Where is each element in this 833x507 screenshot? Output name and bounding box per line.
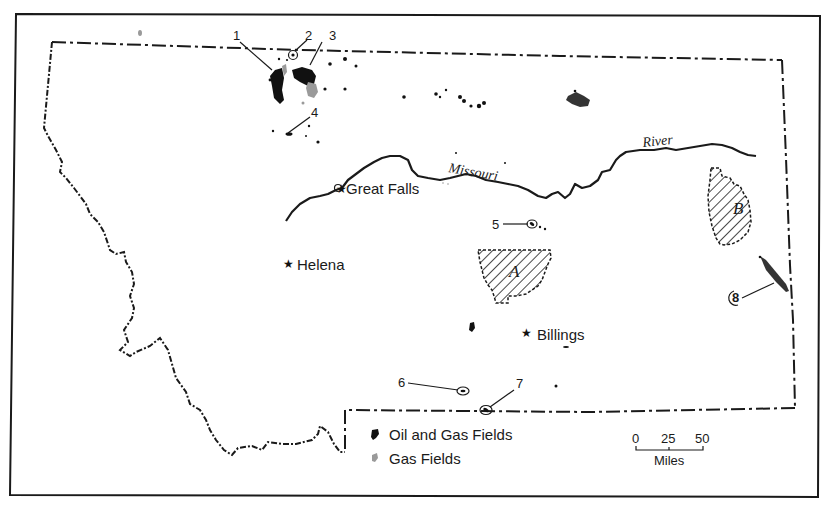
city-star-icon: ★: [283, 257, 294, 271]
legend-label-oil-gas: Oil and Gas Fields: [389, 426, 512, 443]
field-5: 5: [492, 217, 546, 232]
field-label-5: 5: [492, 217, 499, 232]
legend-label-gas: Gas Fields: [389, 450, 461, 467]
field-label-3: 3: [329, 28, 336, 43]
city-star-icon: ★: [521, 326, 532, 340]
field-6: 6: [398, 375, 469, 395]
field-8: 8: [729, 256, 789, 306]
scale-unit-label: Miles: [654, 453, 685, 468]
missouri-river: Missouri River: [286, 132, 756, 221]
scale-tick-0: 0: [632, 431, 639, 446]
northern-field-cluster: [138, 30, 590, 185]
area-label-b: B: [733, 199, 744, 218]
city-label-helena: Helena: [297, 256, 345, 273]
oil-gas-field-icon: [371, 429, 379, 440]
field-7: 7: [480, 376, 523, 415]
legend-item-gas: Gas Fields: [372, 450, 461, 467]
city-label-great-falls: Great Falls: [346, 180, 419, 197]
city-label-billings: Billings: [537, 326, 585, 343]
north-field-leaders: 1 2 3 4: [233, 28, 336, 133]
area-a: A: [478, 250, 551, 303]
area-label-a: A: [508, 262, 520, 281]
field-label-2: 2: [305, 28, 312, 43]
city-great-falls: ★ Great Falls: [335, 180, 420, 197]
field-label-6: 6: [398, 375, 405, 390]
legend-item-oil-gas: Oil and Gas Fields: [371, 426, 512, 443]
river-label-missouri: Missouri: [446, 160, 499, 184]
map-legend: Oil and Gas Fields Gas Fields: [371, 426, 512, 467]
field-label-4: 4: [311, 105, 318, 120]
area-b: B: [708, 168, 751, 245]
scale-bar: 0 25 50 Miles: [632, 431, 709, 468]
scale-tick-50: 50: [695, 431, 709, 446]
montana-oil-gas-map: Missouri River: [0, 0, 833, 507]
city-helena: ★ Helena: [283, 256, 345, 273]
river-label-river: River: [641, 132, 674, 150]
field-label-8: 8: [732, 290, 739, 305]
scale-tick-25: 25: [661, 431, 675, 446]
map-frame: [10, 14, 820, 497]
field-label-7: 7: [516, 376, 523, 391]
field-label-1: 1: [233, 28, 240, 43]
city-billings: ★ Billings: [521, 326, 585, 343]
state-border: [44, 42, 795, 455]
gas-field-icon: [372, 453, 378, 462]
